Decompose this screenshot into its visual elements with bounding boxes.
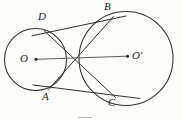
vertex-label-c: C [108,97,115,108]
internal-tangent-ab [49,17,114,90]
vertex-label-b: B [104,1,111,12]
center-dot-o-prime [126,55,129,58]
center-label-o-prime: O′ [132,50,142,61]
center-label-o: O [20,53,28,64]
geometry-figure: D B O O′ A C [0,0,182,120]
vertex-label-d: D [38,11,46,22]
center-line-oo-prime [36,56,128,59]
large-circle [79,12,173,106]
vertex-label-a: A [42,91,49,102]
center-dot-o [35,58,38,61]
